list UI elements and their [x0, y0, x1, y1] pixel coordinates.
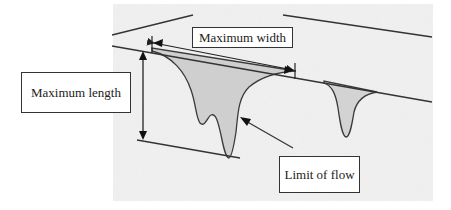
- maximum-length-label: Maximum length: [21, 72, 131, 113]
- maximum-width-label: Maximum width: [192, 27, 293, 48]
- limit-of-flow-label: Limit of flow: [279, 156, 360, 193]
- flow-dimension-diagram: Maximum width Maximum length Limit of fl…: [0, 0, 451, 210]
